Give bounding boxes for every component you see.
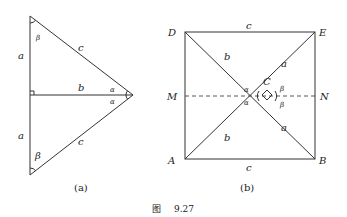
point-A: A <box>167 155 175 166</box>
label-alpha-upper: α <box>244 86 249 94</box>
point-E: E <box>318 27 327 38</box>
label-alpha-top: α <box>110 86 115 94</box>
right-angle-marker <box>30 91 34 95</box>
beta-bottom-arc <box>30 168 36 171</box>
label-a-upper: a <box>281 58 287 69</box>
panel-b-square <box>185 32 315 159</box>
right-angle-diamond <box>262 90 272 100</box>
label-a-bottom: a <box>18 130 24 141</box>
label-b-upper: b <box>224 51 230 62</box>
label-c-top: c <box>246 20 252 31</box>
label-b-lower: b <box>224 132 230 143</box>
beta-arcs <box>275 91 277 101</box>
figure-9-27: a a β β c c b α α (a) D E A B C M N c c … <box>0 0 347 217</box>
label-beta-top: β <box>35 34 40 42</box>
beta-top-arc <box>30 20 36 23</box>
label-a-top: a <box>18 50 24 61</box>
figure-caption-prefix: 图 <box>152 204 161 214</box>
panel-a-triangle <box>30 16 133 175</box>
point-M: M <box>166 91 178 102</box>
point-C: C <box>263 76 271 87</box>
label-b: b <box>78 82 84 93</box>
caption-b: (b) <box>240 182 254 193</box>
point-N: N <box>319 91 330 102</box>
label-beta-bottom: β <box>34 150 41 161</box>
lower-hypotenuse <box>30 95 133 175</box>
figure-caption-number: 9.27 <box>174 204 194 214</box>
label-alpha-bottom: α <box>110 98 115 106</box>
label-alpha-lower: α <box>244 99 249 107</box>
caption-a: (a) <box>74 182 88 193</box>
point-D: D <box>167 27 176 38</box>
label-c-bottom: c <box>78 136 84 147</box>
label-beta-upper: β <box>279 85 284 93</box>
label-beta-lower: β <box>279 101 284 109</box>
point-B: B <box>318 155 326 166</box>
label-c-bottom: c <box>246 162 252 173</box>
label-c-top: c <box>78 42 84 53</box>
label-a-lower: a <box>281 122 287 133</box>
